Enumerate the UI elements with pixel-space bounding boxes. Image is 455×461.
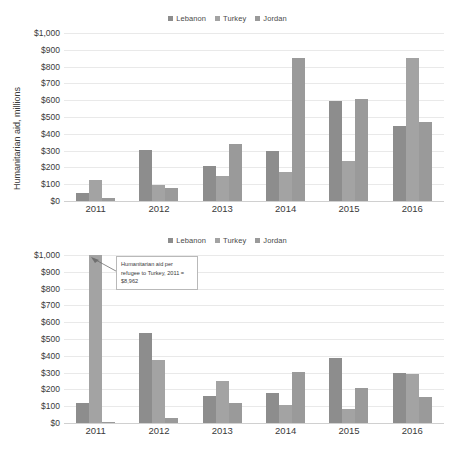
bar-turkey-2016 <box>406 58 419 201</box>
legend-item-jordan: Jordan <box>255 14 287 23</box>
legend-label-jordan: Jordan <box>263 14 287 23</box>
y-axis-tick-label: $100 <box>41 401 60 411</box>
legend-swatch-icon-jordan <box>255 16 260 21</box>
bar-lebanon-2012 <box>139 150 152 201</box>
legend-label-lebanon-2: Lebanon <box>176 236 206 245</box>
bar-group <box>254 33 317 201</box>
bar-turkey-2015 <box>342 409 355 423</box>
bar-turkey-2014 <box>279 405 292 423</box>
bar-turkey-2012 <box>152 360 165 423</box>
bar-group <box>317 255 380 423</box>
bar-jordan-2011 <box>102 422 115 423</box>
y-axis-tick-label: $600 <box>41 95 60 105</box>
bar-group <box>127 33 190 201</box>
chart-humanitarian-aid-millions: Lebanon Turkey Jordan Humanitarian aid, … <box>0 0 455 230</box>
legend-label-jordan-2: Jordan <box>263 236 287 245</box>
gridline <box>64 201 444 202</box>
legend-label-turkey-2: Turkey <box>223 236 246 245</box>
bar-lebanon-2016 <box>393 373 406 423</box>
y-axis-tick-label: $900 <box>41 45 60 55</box>
bar-jordan-2015 <box>355 388 368 423</box>
y-axis-tick-label: $800 <box>41 62 60 72</box>
bar-jordan-2016 <box>419 397 432 423</box>
y-axis-tick-label: $500 <box>41 112 60 122</box>
bar-jordan-2014 <box>292 372 305 423</box>
chart1-x-axis-labels: 201120122013201420152016 <box>64 203 444 214</box>
x-axis-tick-label: 2013 <box>191 425 254 436</box>
chart1-y-axis-labels: $1,000$900$800$700$600$500$400$300$200$1… <box>18 33 60 201</box>
chart1-legend: Lebanon Turkey Jordan <box>0 12 455 24</box>
bar-lebanon-2016 <box>393 126 406 201</box>
bar-group <box>254 255 317 423</box>
bar-lebanon-2014 <box>266 151 279 201</box>
legend-swatch-icon-lebanon <box>168 16 173 21</box>
bar-lebanon-2015 <box>329 358 342 423</box>
x-axis-tick-label: 2012 <box>127 425 190 436</box>
legend-item-turkey-2: Turkey <box>215 236 246 245</box>
bar-lebanon-2013 <box>203 396 216 423</box>
y-axis-tick-label: $300 <box>41 146 60 156</box>
chart1-bars <box>64 33 444 201</box>
x-axis-tick-label: 2012 <box>127 203 190 214</box>
bar-jordan-2012 <box>165 188 178 201</box>
bar-turkey-2014 <box>279 172 292 201</box>
bar-turkey-2016 <box>406 374 419 423</box>
y-axis-tick-label: $200 <box>41 162 60 172</box>
y-axis-tick-label: $500 <box>41 334 60 344</box>
bar-turkey-2013 <box>216 381 229 423</box>
x-axis-tick-label: 2016 <box>381 203 444 214</box>
y-axis-tick-label: $100 <box>41 179 60 189</box>
bar-jordan-2011 <box>102 198 115 201</box>
chart2-y-axis-labels: $1,000$900$800$700$600$500$400$300$200$1… <box>18 255 60 423</box>
bar-lebanon-2012 <box>139 333 152 423</box>
y-axis-tick-label: $700 <box>41 300 60 310</box>
y-axis-tick-label: $0 <box>51 418 60 428</box>
y-axis-tick-label: $600 <box>41 317 60 327</box>
y-axis-tick-label: $900 <box>41 267 60 277</box>
bar-lebanon-2014 <box>266 393 279 423</box>
annotation-callout: Humanitarian aid per refugee to Turkey, … <box>116 256 198 290</box>
bar-group <box>317 33 380 201</box>
x-axis-tick-label: 2014 <box>254 203 317 214</box>
legend-swatch-icon-jordan-2 <box>255 238 260 243</box>
x-axis-tick-label: 2011 <box>64 425 127 436</box>
bar-group <box>191 33 254 201</box>
bar-lebanon-2011 <box>76 403 89 423</box>
x-axis-tick-label: 2015 <box>317 203 380 214</box>
x-axis-tick-label: 2013 <box>191 203 254 214</box>
legend-swatch-icon-lebanon-2 <box>168 238 173 243</box>
bar-group <box>381 33 444 201</box>
chart-aid-per-refugee: Lebanon Turkey Jordan $1,000$900$800$700… <box>0 230 455 461</box>
bar-jordan-2014 <box>292 58 305 201</box>
y-axis-tick-label: $1,000 <box>34 28 60 38</box>
bar-jordan-2013 <box>229 144 242 201</box>
x-axis-tick-label: 2014 <box>254 425 317 436</box>
bar-group <box>381 255 444 423</box>
bar-group <box>191 255 254 423</box>
y-axis-tick-label: $200 <box>41 384 60 394</box>
chart2-legend: Lebanon Turkey Jordan <box>0 234 455 246</box>
legend-item-lebanon: Lebanon <box>168 14 206 23</box>
legend-item-lebanon-2: Lebanon <box>168 236 206 245</box>
bar-turkey-2011 <box>89 180 102 201</box>
bar-lebanon-2013 <box>203 166 216 201</box>
bar-jordan-2016 <box>419 122 432 201</box>
legend-item-jordan-2: Jordan <box>255 236 287 245</box>
bar-jordan-2013 <box>229 403 242 423</box>
y-axis-tick-label: $0 <box>51 196 60 206</box>
legend-label-lebanon: Lebanon <box>176 14 206 23</box>
y-axis-tick-label: $1,000 <box>34 250 60 260</box>
bar-lebanon-2011 <box>76 193 89 201</box>
bar-turkey-2011 <box>89 255 102 423</box>
figure-container: Lebanon Turkey Jordan Humanitarian aid, … <box>0 0 455 461</box>
x-axis-tick-label: 2011 <box>64 203 127 214</box>
y-axis-tick-label: $800 <box>41 284 60 294</box>
bar-jordan-2012 <box>165 418 178 423</box>
bar-jordan-2015 <box>355 99 368 201</box>
y-axis-tick-label: $400 <box>41 351 60 361</box>
y-axis-tick-label: $400 <box>41 129 60 139</box>
bar-turkey-2015 <box>342 161 355 201</box>
legend-item-turkey: Turkey <box>215 14 246 23</box>
bar-turkey-2012 <box>152 185 165 201</box>
legend-swatch-icon-turkey <box>215 16 220 21</box>
